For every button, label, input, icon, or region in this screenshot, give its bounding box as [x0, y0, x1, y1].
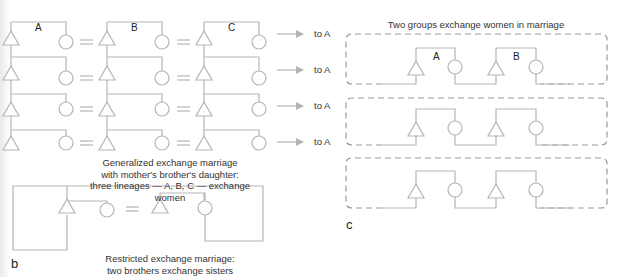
group-label-a: A — [433, 51, 440, 62]
group-label-b: B — [513, 51, 520, 62]
row-2 — [11, 57, 259, 71]
generalized-exchange-diagram — [3, 22, 304, 150]
restricted-group-boxes — [346, 34, 607, 208]
row-4 — [11, 130, 259, 136]
lineage-label-a: A — [35, 22, 42, 33]
marriage-equals-signs — [80, 40, 190, 145]
panel-label-c: c — [346, 217, 353, 232]
restricted-exchange-caption: Restricted exchange marriage: two brothe… — [60, 253, 280, 276]
caption-line: women — [60, 192, 280, 204]
caption-line: two brothers exchange sisters — [60, 265, 280, 277]
group-box-1 — [346, 34, 607, 84]
caption-line: with mother's brother's daughter: — [60, 169, 280, 181]
caption-line: three lineages — A, B, C — exchange — [60, 180, 280, 192]
arrow-target-label: to A — [314, 136, 330, 147]
arrow-target-label: to A — [314, 28, 330, 39]
group-box-3 — [346, 158, 607, 208]
caption-line: Restricted exchange marriage: — [60, 253, 280, 265]
lineage-label-c: C — [228, 22, 235, 33]
arrow-target-label: to A — [314, 100, 330, 111]
kinship-diagram — [0, 0, 624, 277]
group-box-2 — [346, 98, 607, 145]
generalized-exchange-caption: Generalized exchange marriage with mothe… — [60, 157, 280, 203]
arrows-to-a — [277, 30, 304, 146]
caption-line: Generalized exchange marriage — [60, 157, 280, 169]
arrow-target-label: to A — [314, 64, 330, 75]
row-3 — [11, 94, 259, 102]
panel-label-b: b — [11, 256, 18, 271]
panel-c-title: Two groups exchange women in marriage — [376, 19, 576, 31]
lineage-label-b: B — [131, 22, 138, 33]
